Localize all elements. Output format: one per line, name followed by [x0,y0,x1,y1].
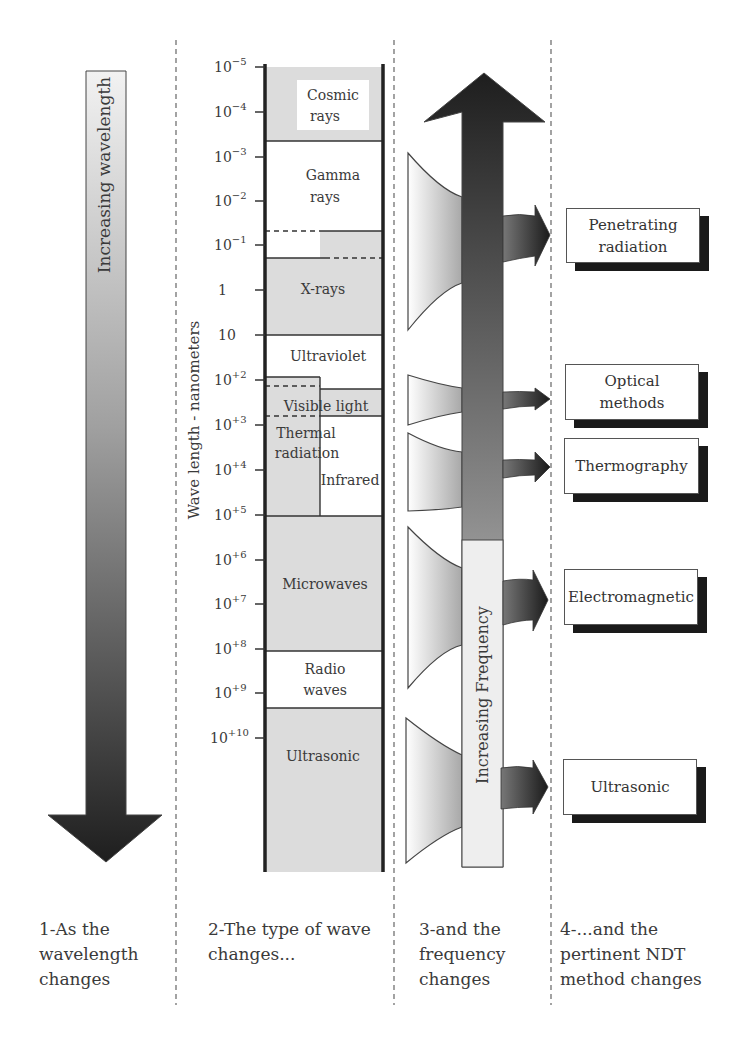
svg-text:10+8: 10+8 [214,638,247,657]
increasing-frequency-label: Increasing Frequency [473,606,492,784]
svg-text:10+6: 10+6 [214,549,247,568]
method-arrows [501,205,550,814]
svg-text:10+9: 10+9 [214,682,247,701]
band-cosmic-line1: Cosmic [307,87,359,103]
band-gamma-rays: Gammarays [306,167,360,205]
band-ultrasonic: Ultrasonic [286,748,360,764]
caption-frequency: 3-and the frequency changes [419,917,505,992]
ndt-spectrum-diagram: Increasing wavelength [0,0,752,1039]
svg-text:10+7: 10+7 [214,593,247,612]
svg-text:10−4: 10−4 [214,101,247,120]
method-ultrasonic: Ultrasonic [563,759,697,815]
method-optical-methods: Optical methods [565,364,699,420]
method-thermography: Thermography [564,438,699,494]
increasing-wavelength-label: Increasing wavelength [94,77,114,273]
increasing-wavelength-arrow: Increasing wavelength [48,71,162,862]
svg-text:10+2: 10+2 [214,369,247,388]
band-ultraviolet: Ultraviolet [290,348,367,364]
svg-text:10−1: 10−1 [214,234,247,253]
frequency-fans [406,153,462,863]
svg-text:10: 10 [218,327,236,343]
band-infrared: Infrared [321,472,380,488]
caption-wavelength: 1-As the wavelength changes [39,917,138,992]
axis-title: Wave length - nanometers [185,321,203,520]
svg-text:10−2: 10−2 [214,190,247,209]
band-labels: Cosmicrays Gammarays X-rays Ultraviolet … [275,87,380,764]
band-microwaves: Microwaves [282,576,367,592]
caption-wave-type: 2-The type of wave changes... [208,917,371,967]
caption-ndt-method: 4-...and the pertinent NDT method change… [560,917,702,992]
method-penetrating-radiation: Penetrating radiation [566,208,700,263]
band-xrays: X-rays [301,281,345,297]
svg-text:10−3: 10−3 [214,146,247,165]
axis-tick-labels: 10−5 10−4 10−3 10−2 10−1 1 10 10+2 10+3 … [210,56,249,746]
svg-text:10−5: 10−5 [214,56,247,75]
svg-text:10+5: 10+5 [214,504,247,523]
svg-text:10+4: 10+4 [214,459,247,478]
svg-text:10+10: 10+10 [210,727,249,746]
band-visible-light: Visible light [283,398,369,414]
svg-text:10+3: 10+3 [214,414,247,433]
method-electromagnetic: Electromagnetic [564,569,698,625]
band-radio-waves: Radiowaves [303,661,347,698]
svg-text:1: 1 [218,282,227,298]
